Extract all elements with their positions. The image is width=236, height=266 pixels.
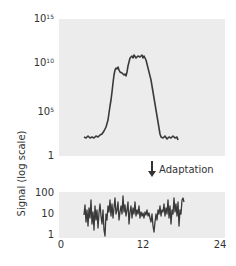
chart-lines xyxy=(0,0,236,266)
bottom-signal-line xyxy=(84,196,184,236)
top-signal-line xyxy=(84,55,178,140)
